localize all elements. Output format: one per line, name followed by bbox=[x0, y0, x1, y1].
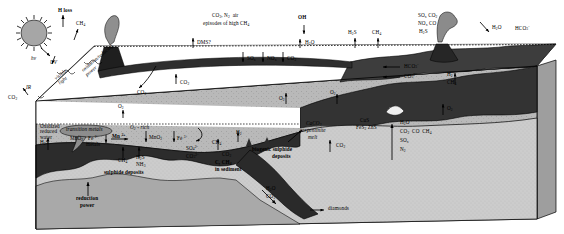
label-transition-metals: transition metals bbox=[66, 127, 103, 133]
label-h2s-left: H2S bbox=[40, 140, 49, 146]
label-ch4-vent: CH4 bbox=[447, 80, 456, 86]
label-mantle-sox: SOx bbox=[400, 138, 409, 144]
label-ch4-sed: CH4 bbox=[212, 140, 221, 146]
label-volcanic-h2s: H2S bbox=[419, 29, 428, 35]
label-h-loss: H loss bbox=[58, 8, 72, 14]
label-diamonds: diamonds bbox=[328, 206, 349, 212]
label-caco3: CaCO3 bbox=[306, 121, 322, 127]
label-metals: metals bbox=[86, 142, 100, 148]
label-dms: DMS? bbox=[197, 40, 211, 46]
label-sox-down: SOx bbox=[247, 56, 256, 62]
label-c-ch4-sediment: C, CH4 bbox=[215, 160, 232, 166]
label-ch4-floor: CH4 bbox=[118, 158, 127, 164]
label-fes2-zns: FeS2 ZnS bbox=[356, 125, 377, 131]
figure-container: H loss CH4 hv UV visiblelight oxidation/… bbox=[0, 0, 564, 234]
label-co2-sed: CO2 bbox=[222, 152, 231, 158]
label-ch4-up: CH4 bbox=[76, 21, 85, 27]
label-reduction: reduction bbox=[76, 196, 98, 202]
label-h2o-right: H2O bbox=[492, 25, 502, 31]
label-hco3-in: HCO3- bbox=[404, 63, 418, 69]
label-co2-up-left: CO2 bbox=[180, 80, 189, 86]
label-co2-deep: CO2 bbox=[266, 194, 275, 200]
label-co2-ir: CO2 bbox=[8, 95, 17, 101]
label-volcanic-nox-co: NOx CO bbox=[418, 21, 436, 27]
label-sulphide-deposits: sulphide deposits bbox=[104, 170, 144, 176]
label-h2-vent: H2 bbox=[447, 72, 453, 78]
label-mantle-n2: N2 bbox=[400, 147, 406, 153]
label-o2-vent: O2 bbox=[447, 106, 453, 112]
label-nh3-floor: NH3 bbox=[136, 162, 146, 168]
label-cus-fes2-zns: CuS bbox=[360, 118, 369, 124]
label-mn2: Mn 2+ bbox=[112, 133, 125, 139]
label-mno2-left: MnO2 bbox=[70, 136, 83, 142]
label-h2-sed: H2 bbox=[236, 130, 242, 136]
label-air-composition: CO2, N2 air bbox=[212, 13, 238, 19]
label-nox-down: NOx bbox=[267, 56, 277, 62]
label-h2o-atm: H2O bbox=[305, 40, 315, 46]
label-co2-subduct: CO2 bbox=[336, 143, 345, 149]
label-co3-in: CO32- bbox=[404, 73, 417, 79]
label-oxidized-reduced-water: Oxidized reduced water bbox=[40, 124, 60, 140]
label-h2s-atm: H2S bbox=[348, 30, 357, 36]
label-melt: melt bbox=[308, 135, 317, 141]
label-ir: IR bbox=[26, 85, 31, 91]
label-hco3-right: HCO3- bbox=[515, 25, 529, 31]
label-fe3: Fe 3+ bbox=[177, 135, 188, 141]
label-volcanic-sox-co2: SOx CO2 bbox=[418, 13, 437, 19]
label-biogenic-sulphide: biogenic sulphide bbox=[252, 147, 292, 153]
label-ch4-atm: CH4 bbox=[372, 30, 381, 36]
label-so4-floor: SO42- bbox=[186, 145, 198, 151]
label-power: power bbox=[80, 203, 94, 209]
label-air-episodes: episodes of high CH4 bbox=[203, 21, 249, 27]
label-co2-curl: CO2 bbox=[137, 90, 146, 96]
label-h2s-floor: H2S bbox=[136, 155, 145, 161]
label-biogenic-sulphide-2: deposits bbox=[272, 154, 291, 160]
label-in-sediment: in sediment bbox=[215, 167, 242, 173]
label-o2-rich: O2 - rich bbox=[130, 125, 149, 131]
label-o2-surface: O2 bbox=[118, 104, 124, 110]
label-h2o-deep: H2O bbox=[266, 186, 276, 192]
label-mantle-h2o: H2O bbox=[400, 120, 410, 126]
label-hv: hv bbox=[31, 56, 36, 62]
sun-icon bbox=[16, 15, 52, 51]
label-o2-left: O2 bbox=[279, 96, 285, 102]
label-mantle-co2-co-ch4: CO2 CO CH4 bbox=[400, 129, 432, 135]
label-uv: UV bbox=[50, 60, 57, 66]
label-mno2-mid: MnO2 bbox=[149, 135, 162, 141]
label-oh: OH bbox=[298, 15, 306, 21]
label-serpentinite: serpentinite bbox=[300, 128, 326, 134]
label-o2-mid: O2 bbox=[330, 90, 336, 96]
label-co2-down: CO2 bbox=[287, 56, 296, 62]
label-co3-floor: CO32- bbox=[186, 153, 199, 159]
